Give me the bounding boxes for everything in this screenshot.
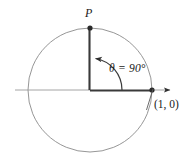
initial-point-label: (1, 0) <box>154 99 179 111</box>
figure-canvas <box>0 0 193 168</box>
unit-circle-figure: P θ = 90° (1, 0) <box>0 0 193 168</box>
terminal-point-dot <box>87 25 92 30</box>
terminal-point-label: P <box>85 7 92 19</box>
angle-measure-label: θ = 90° <box>109 63 146 75</box>
